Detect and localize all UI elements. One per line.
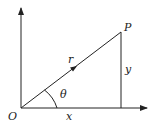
angle-label: θ bbox=[60, 88, 67, 101]
y-label: y bbox=[124, 63, 132, 76]
x-label: x bbox=[66, 110, 73, 123]
origin-label: O bbox=[8, 110, 17, 123]
polar-diagram: O P r θ x y bbox=[0, 0, 151, 126]
angle-arc bbox=[45, 90, 58, 108]
radius-label: r bbox=[68, 53, 74, 66]
point-label: P bbox=[123, 21, 132, 34]
radius-line bbox=[21, 32, 121, 108]
radius-arrow-icon bbox=[70, 66, 77, 72]
